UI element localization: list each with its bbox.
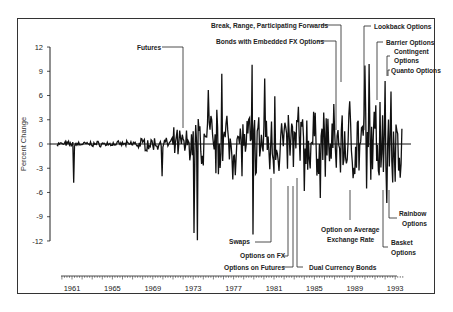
annotation-rainbow-2: Options	[402, 220, 427, 228]
annotation-break-range: Break, Range, Participating Forwards	[211, 22, 329, 30]
annotation-avg-rate: Option on Average	[321, 226, 380, 234]
annotation-futures: Futures	[137, 44, 162, 51]
x-tick-label: 1993	[387, 284, 404, 293]
x-tick-label: 1969	[144, 284, 161, 293]
y-tick-label: 0	[39, 140, 43, 149]
y-axis: 129630-3-6-9-12 Percent Change	[19, 43, 50, 246]
y-tick-label: -6	[36, 188, 43, 197]
x-tick-label: 1961	[64, 284, 81, 293]
x-tick-label: 1973	[185, 284, 202, 293]
x-tick-label: 1977	[225, 284, 242, 293]
annotation-rainbow: Rainbow	[399, 210, 427, 217]
annotation-swaps: Swaps	[229, 238, 250, 246]
y-tick-label: 6	[39, 91, 43, 100]
annotation-avg-rate-2: Exchange Rate	[327, 236, 375, 244]
annotation-contingent-2: Options	[394, 57, 419, 65]
y-tick-label: 12	[35, 43, 43, 52]
x-tick-label: 1981	[266, 284, 283, 293]
y-axis-label: Percent Change	[19, 117, 28, 171]
x-tick-label: 1989	[346, 284, 363, 293]
annotation-basket-2: Options	[391, 249, 416, 257]
y-tick-label: -3	[36, 164, 43, 173]
y-tick-label: -12	[32, 237, 43, 246]
x-tick-label: 1985	[306, 284, 323, 293]
y-tick-label: 9	[39, 67, 43, 76]
annotation-barrier: Barrier Options	[386, 39, 435, 47]
annotation-basket: Basket	[391, 239, 413, 246]
chart: 129630-3-6-9-12 Percent Change 196119651…	[0, 0, 453, 312]
annotation-options-futures: Options on Futures	[224, 264, 285, 272]
annotation-lookback: Lookback Options	[374, 23, 432, 31]
y-tick-label: -9	[36, 212, 43, 221]
x-axis: 196119651969197319771981198519891993	[61, 276, 404, 293]
annotation-dual-currency: Dual Currency Bonds	[309, 264, 377, 272]
annotation-options-fx: Options on FX	[240, 252, 286, 260]
x-tick-label: 1965	[104, 284, 121, 293]
annotation-bonds-fx: Bonds with Embedded FX Options	[216, 38, 324, 46]
annotation-quanto: Quanto Options	[391, 67, 441, 75]
annotation-contingent: Contingent	[394, 48, 430, 56]
y-tick-label: 3	[39, 115, 43, 124]
